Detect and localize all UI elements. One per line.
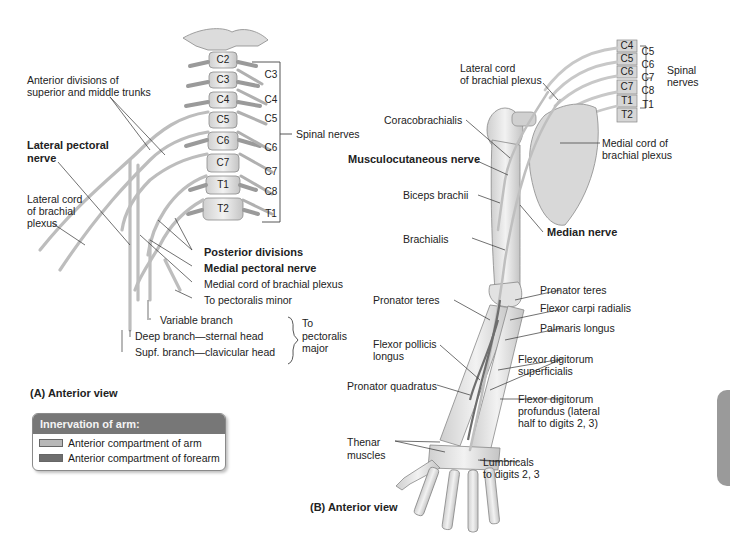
label-spinal-nerves-b-line2: nerves — [667, 76, 699, 89]
page-thumb-tab — [717, 390, 730, 486]
vertebra-label: T1 — [616, 95, 638, 107]
vertebra-label: C2 — [212, 54, 234, 66]
label-fds-line1: Flexor digitorum — [518, 353, 593, 366]
label-to-pectoralis-minor: To pectoralis minor — [204, 294, 292, 307]
nerve-root-label: C7 — [260, 166, 282, 178]
caption-panel-b: (B) Anterior view — [310, 501, 398, 514]
label-to-pectoralis-major-line2: pectoralis — [302, 330, 347, 343]
nerve-root-label: C4 — [260, 94, 282, 106]
label-medial-cord-b-line2: brachial plexus — [602, 149, 672, 162]
legend-swatch-dark — [39, 454, 63, 462]
vertebra-label: C4 — [212, 94, 234, 106]
label-musculocutaneous-nerve: Musculocutaneous nerve — [348, 153, 480, 166]
label-lateral-cord-a-line2: of brachial — [27, 205, 75, 218]
label-medial-pectoral-nerve: Medial pectoral nerve — [204, 262, 317, 275]
label-medial-cord-b-line1: Medial cord of — [602, 137, 668, 150]
vertebra-label: C5 — [212, 114, 234, 126]
vertebra-label: T2 — [616, 109, 638, 121]
label-to-pectoralis-major-line1: To — [302, 317, 313, 330]
vertebra-label: C4 — [616, 40, 638, 52]
label-biceps-brachii: Biceps brachii — [403, 189, 468, 202]
label-deep-branch: Deep branch—sternal head — [135, 330, 263, 343]
label-spinal-nerves-b-line1: Spinal — [667, 64, 696, 77]
label-lateral-pectoral-nerve-line1: Lateral pectoral — [27, 139, 109, 152]
vertebra-label: C6 — [212, 135, 234, 147]
nerve-root-label: C3 — [260, 69, 282, 81]
vertebra-label: C5 — [616, 53, 638, 65]
legend-item-label: Anterior compartment of arm — [68, 437, 202, 449]
label-lateral-cord-b-line1: Lateral cord — [460, 62, 515, 75]
vertebra-label: C3 — [212, 74, 234, 86]
label-palmaris-longus: Palmaris longus — [540, 322, 615, 335]
label-fdp-line1: Flexor digitorum — [518, 393, 593, 406]
legend-title: Innervation of arm: — [33, 414, 225, 434]
nerve-root-label: C5 — [260, 113, 282, 125]
nerve-root-label: C6 — [637, 59, 659, 71]
label-thenar-muscles-line2: muscles — [347, 449, 386, 462]
label-lumbricals-line1: Lumbricals — [483, 456, 534, 469]
label-pronator-quadratus: Pronator quadratus — [347, 380, 437, 393]
label-anterior-divisions-line1: Anterior divisions of — [27, 74, 119, 87]
vertebra-label: C7 — [212, 157, 234, 169]
label-lumbricals-line2: to digits 2, 3 — [483, 468, 540, 481]
nerve-root-label: C5 — [637, 46, 659, 58]
vertebra-label: C6 — [616, 66, 638, 78]
nerve-root-label: C6 — [260, 142, 282, 154]
nerve-root-label: C7 — [637, 72, 659, 84]
label-variable-branch: Variable branch — [160, 314, 233, 327]
nerve-root-label: T1 — [637, 99, 659, 111]
legend-item-label: Anterior compartment of forearm — [68, 452, 220, 464]
label-brachialis: Brachialis — [403, 233, 449, 246]
nerve-root-label: C8 — [637, 85, 659, 97]
label-coracobrachialis: Coracobrachialis — [384, 114, 462, 127]
label-supf-branch: Supf. branch—clavicular head — [135, 346, 275, 359]
legend-item-forearm: Anterior compartment of forearm — [33, 451, 225, 464]
caption-panel-a: (A) Anterior view — [30, 387, 118, 400]
vertebra-label: T2 — [212, 203, 234, 215]
nerve-root-label: T1 — [260, 208, 282, 220]
label-to-pectoralis-major-line3: major — [302, 342, 328, 355]
legend-item-arm: Anterior compartment of arm — [33, 436, 225, 449]
label-medial-cord-a: Medial cord of brachial plexus — [204, 278, 343, 291]
vertebra-label: T1 — [212, 179, 234, 191]
label-median-nerve: Median nerve — [547, 226, 617, 239]
label-lateral-cord-b-line2: of brachial plexus — [460, 74, 542, 87]
label-pronator-teres-right: Pronator teres — [540, 284, 607, 297]
label-flexor-pollicis-longus-line1: Flexor pollicis — [373, 338, 437, 351]
label-anterior-divisions-line2: superior and middle trunks — [27, 86, 151, 99]
label-fdp-line2: profundus (lateral — [518, 405, 600, 418]
label-lateral-cord-a-line3: plexus — [27, 217, 57, 230]
vertebra-label: C7 — [616, 81, 638, 93]
label-spinal-nerves-a: Spinal nerves — [296, 128, 360, 141]
label-fdp-line3: half to digits 2, 3) — [518, 417, 598, 430]
label-thenar-muscles-line1: Thenar — [347, 436, 380, 449]
label-fds-line2: superficialis — [518, 365, 573, 378]
label-flexor-carpi-radialis: Flexor carpi radialis — [540, 302, 631, 315]
label-lateral-pectoral-nerve-line2: nerve — [27, 152, 56, 165]
innervation-legend: Innervation of arm: Anterior compartment… — [32, 413, 226, 471]
label-flexor-pollicis-longus-line2: longus — [373, 350, 404, 363]
label-posterior-divisions: Posterior divisions — [204, 246, 303, 259]
legend-swatch-light — [39, 439, 63, 447]
label-pronator-teres-left: Pronator teres — [373, 294, 440, 307]
nerve-root-label: C8 — [260, 186, 282, 198]
label-lateral-cord-a-line1: Lateral cord — [27, 193, 82, 206]
